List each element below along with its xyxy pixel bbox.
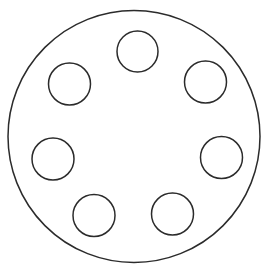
- inner-circle-top: [117, 31, 158, 72]
- inner-circle-upper-left: [49, 63, 91, 105]
- inner-circles-group: [32, 31, 243, 237]
- inner-circle-upper-right: [185, 61, 227, 103]
- inner-circle-right: [201, 137, 243, 179]
- circle-diagram: [0, 0, 261, 272]
- inner-circle-left: [32, 138, 74, 180]
- inner-circle-lower-left: [73, 195, 115, 237]
- inner-circle-lower-right: [152, 193, 194, 235]
